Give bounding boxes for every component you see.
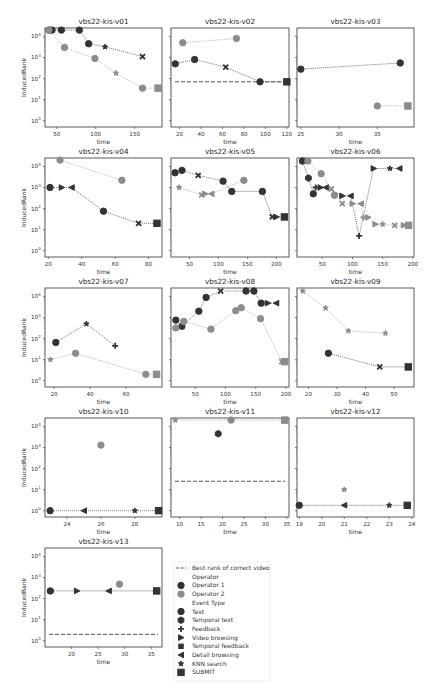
y-tick-label: 100	[31, 636, 41, 644]
chart-grid: vbs22-kis-v0110010110210310450100150time…	[0, 0, 438, 700]
data-point-x-icon	[223, 65, 228, 70]
series-line-2	[303, 291, 386, 333]
x-tick-label: 35	[148, 651, 156, 657]
y-tick-label: 102	[31, 334, 41, 342]
series-line-1	[175, 60, 287, 82]
data-point-x-icon	[140, 54, 145, 59]
plot-frame	[171, 418, 289, 517]
x-tick-label: 20	[305, 391, 313, 397]
data-point-star-icon	[176, 185, 181, 190]
data-point-circle-icon	[318, 171, 324, 177]
y-axis-label: InducedRank	[20, 57, 27, 96]
hexagon-icon	[178, 617, 184, 624]
y-tick-label: 104	[31, 552, 41, 560]
x-tick-label: 25	[297, 131, 305, 137]
series-line-2	[49, 30, 158, 88]
data-point-x-icon	[196, 173, 201, 178]
plot-frame	[45, 548, 162, 647]
x-tick-label: 26	[97, 521, 105, 527]
data-point-circle-icon	[238, 305, 244, 311]
subplot-vbs22-kis-v06: vbs22-kis-v0650100150200time	[295, 147, 419, 275]
plot-frame	[297, 288, 414, 387]
series-line-1	[56, 324, 115, 346]
subplot-vbs22-kis-v11: vbs22-kis-v11101520253035time	[169, 407, 291, 535]
data-point-tri-right-icon	[59, 185, 65, 191]
data-point-star-icon	[102, 44, 107, 49]
y-axis-label: InducedRank	[20, 577, 27, 616]
x-tick-label: 40	[78, 261, 86, 267]
subplot-title: vbs22-kis-v02	[205, 17, 255, 26]
data-point-star-icon	[387, 503, 392, 508]
data-point-star-icon	[300, 288, 305, 293]
series-line-2	[50, 353, 156, 374]
data-point-tri-right-icon	[274, 214, 280, 220]
y-tick-label: 102	[31, 204, 41, 212]
legend-item-label: Feedback	[192, 625, 221, 632]
data-point-hexagon-icon	[215, 430, 221, 437]
x-tick-label: 35	[374, 131, 382, 137]
x-axis-label: time	[223, 398, 237, 405]
x-axis-label: time	[223, 138, 237, 145]
x-tick-label: 20	[318, 521, 326, 527]
subplot-vbs22-kis-v01: vbs22-kis-v0110010110210310450100150time…	[20, 17, 162, 145]
subplot-title: vbs22-kis-v11	[205, 407, 255, 416]
x-tick-label: 100	[220, 391, 231, 397]
subplot-title: vbs22-kis-v06	[330, 147, 380, 156]
legend-item-label: Video browsing	[192, 634, 238, 642]
data-point-star-icon	[342, 487, 347, 492]
data-point-tri-right-icon	[350, 201, 356, 207]
legend-item-label: Operator 1	[192, 581, 225, 589]
x-tick-label: 150	[250, 391, 261, 397]
data-point-circle-icon	[181, 318, 187, 324]
x-tick-label: 100	[213, 261, 224, 267]
subplot-vbs22-kis-v02: vbs22-kis-v0220406080100120time	[169, 17, 293, 145]
data-point-circle-icon	[243, 288, 249, 294]
data-point-square-icon	[154, 220, 160, 226]
y-tick-label: 104	[31, 292, 41, 300]
data-point-tri-left-icon	[81, 508, 87, 514]
x-axis-label: time	[223, 528, 237, 535]
y-tick-label: 101	[31, 355, 41, 363]
x-tick-label: 10	[176, 521, 184, 527]
data-point-square-icon	[404, 502, 410, 508]
x-tick-label: 15	[197, 521, 205, 527]
y-tick-label: 104	[31, 32, 41, 40]
data-point-tri-right-icon	[74, 588, 80, 594]
data-point-tri-left-icon	[341, 503, 347, 509]
data-point-circle-icon	[173, 325, 179, 331]
data-point-square-icon	[155, 507, 161, 513]
x-tick-label: 24	[63, 521, 71, 527]
y-tick-label: 103	[31, 53, 41, 61]
data-point-circle-icon	[100, 208, 106, 214]
data-point-plus-icon	[356, 233, 362, 239]
x-tick-label: 150	[242, 261, 253, 267]
subplot-vbs22-kis-v04: vbs22-kis-v0410010110210310420406080time…	[20, 147, 162, 275]
x-tick-label: 50	[319, 261, 327, 267]
data-point-circle-icon	[331, 192, 337, 198]
data-point-star-icon	[113, 70, 118, 75]
x-tick-label: 60	[219, 131, 227, 137]
data-point-square-icon	[282, 417, 288, 423]
x-tick-label: 40	[197, 131, 205, 137]
series-line-1	[49, 30, 143, 56]
x-axis-label: time	[97, 528, 111, 535]
y-tick-label: 100	[31, 506, 41, 514]
y-tick-label: 100	[31, 246, 41, 254]
subplot-title: vbs22-kis-v08	[205, 277, 255, 286]
data-point-square-icon	[284, 79, 290, 85]
x-tick-label: 30	[333, 391, 341, 397]
data-point-tri-right-icon	[203, 191, 209, 197]
data-point-circle-icon	[47, 507, 53, 513]
x-tick-label: 30	[262, 521, 270, 527]
data-point-circle-icon	[220, 178, 226, 184]
x-tick-label: 35	[283, 521, 291, 527]
data-point-circle-icon	[325, 350, 331, 356]
subplot-vbs22-kis-v08: vbs22-kis-v0850100150200time	[169, 277, 292, 405]
data-point-circle-icon	[85, 41, 91, 47]
subplot-vbs22-kis-v12: vbs22-kis-v12192021222324time	[295, 407, 416, 535]
plot-frame	[171, 28, 289, 127]
x-axis-label: time	[97, 658, 111, 665]
data-point-circle-icon	[173, 317, 179, 323]
data-point-circle-icon	[180, 40, 186, 46]
y-tick-label: 104	[31, 422, 41, 430]
